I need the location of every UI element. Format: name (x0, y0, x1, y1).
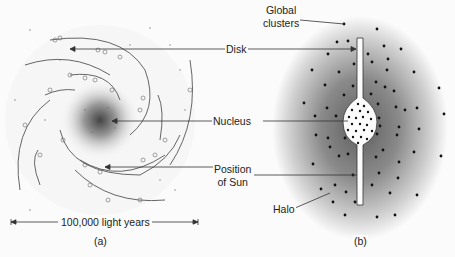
label-halo: Halo (272, 203, 296, 215)
spiral-galaxy-face-on (5, 25, 195, 215)
label-global-clusters-line2: clusters (263, 17, 299, 30)
label-global-clusters: Global clusters (262, 4, 300, 30)
label-sun-line1: Position (214, 163, 251, 176)
label-global-clusters-line1: Global (263, 4, 299, 17)
label-panel-b: (b) (353, 235, 368, 247)
label-position-of-sun: Position of Sun (213, 163, 252, 189)
label-scale: 100,000 light years (60, 216, 151, 228)
label-disk: Disk (225, 43, 247, 55)
label-nucleus: Nucleus (212, 115, 252, 127)
label-sun-line2: of Sun (214, 176, 251, 189)
label-panel-a: (a) (93, 235, 108, 247)
